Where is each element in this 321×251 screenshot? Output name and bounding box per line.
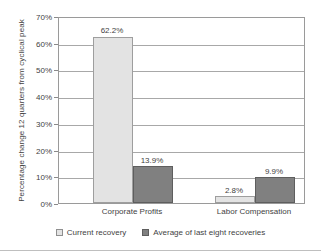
bar-value-label: 62.2% [101, 26, 124, 35]
legend-label: Average of last eight recoveries [153, 228, 265, 237]
category-label-labor-compensation: Labor Compensation [217, 207, 291, 216]
legend-item-current-recovery: Current recovery [56, 228, 127, 237]
legend-swatch-icon [142, 229, 149, 236]
bar-value-label: 13.9% [141, 156, 164, 165]
y-tick-label: 10% [16, 173, 52, 182]
legend: Current recovery Average of last eight r… [0, 228, 321, 237]
bar-average-recoveries-labor-compensation [255, 177, 295, 203]
y-tick-label: 40% [16, 93, 52, 102]
legend-label: Current recovery [67, 228, 127, 237]
bar-current-recovery-corporate-profits [93, 37, 133, 203]
bar-chart: Percentage change 12 quarters from cycli… [0, 0, 321, 251]
bar-value-label: 2.8% [225, 186, 243, 195]
y-tick-label: 20% [16, 146, 52, 155]
bar-value-label: 9.9% [265, 167, 283, 176]
y-tick-label: 0% [16, 200, 52, 209]
y-axis-title: Percentage change 12 quarters from cycli… [17, 6, 26, 216]
y-tick-label: 60% [16, 39, 52, 48]
legend-item-average-recoveries: Average of last eight recoveries [142, 228, 265, 237]
category-label-corporate-profits: Corporate Profits [102, 207, 162, 216]
legend-swatch-icon [56, 229, 63, 236]
y-tick-mark [54, 204, 58, 205]
y-tick-label: 30% [16, 119, 52, 128]
y-tick-label: 50% [16, 66, 52, 75]
bar-average-recoveries-corporate-profits [133, 166, 173, 203]
y-tick-label: 70% [16, 13, 52, 22]
bar-current-recovery-labor-compensation [215, 196, 255, 204]
